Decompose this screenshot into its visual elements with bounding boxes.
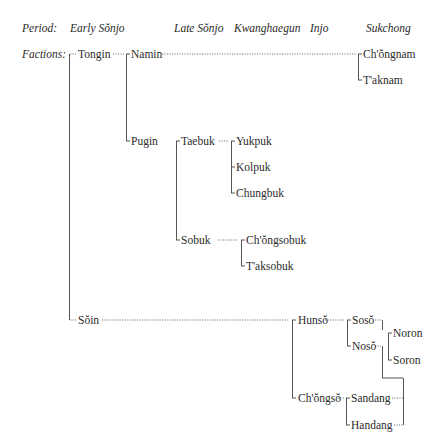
node-yukpuk: Yukpuk xyxy=(236,135,272,147)
connector-lines xyxy=(0,0,443,446)
node-namin: Namin xyxy=(131,48,162,60)
node-taksobuk: T'aksobuk xyxy=(246,260,293,272)
node-hunso: Hunsŏ xyxy=(298,314,328,326)
factions-label: Factions: xyxy=(22,48,66,60)
node-chongsobuk: Ch'ŏngsobuk xyxy=(246,234,306,246)
node-soin: Sŏin xyxy=(78,314,99,326)
node-pugin: Pugin xyxy=(131,135,158,147)
period-sukchong: Sukchong xyxy=(366,22,411,34)
node-handang: Handang xyxy=(351,419,393,431)
node-chongnam: Ch'ŏngnam xyxy=(363,48,416,60)
node-soso: Sosŏ xyxy=(352,314,374,326)
node-sobuk: Sobuk xyxy=(181,234,210,246)
node-chongso: Ch'ŏngsŏ xyxy=(298,392,341,404)
period-late-sonjo: Late Sŏnjo xyxy=(174,22,224,34)
period-kwanghaegun: Kwanghaegun xyxy=(234,22,300,34)
node-soron: Soron xyxy=(393,354,420,366)
period-label: Period: xyxy=(22,22,57,34)
period-injo: Injo xyxy=(310,22,329,34)
period-early-sonjo: Early Sŏnjo xyxy=(70,22,125,34)
node-noso: Nosŏ xyxy=(352,340,376,352)
node-taknam: T'aknam xyxy=(363,74,403,86)
node-taebuk: Taebuk xyxy=(181,135,215,147)
node-sandang: Sandang xyxy=(351,392,391,404)
node-kolpuk: Kolpuk xyxy=(236,161,271,173)
node-noron: Noron xyxy=(393,327,422,339)
node-chungbuk: Chungbuk xyxy=(236,187,284,199)
node-tongin: Tongin xyxy=(78,48,110,60)
